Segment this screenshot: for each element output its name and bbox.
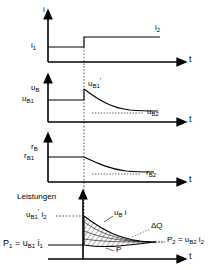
figure-canvas: i i1 i2 t uB uB1 uB1' uB2 t rB rB1 rB2 t… xyxy=(0,0,211,270)
chart4-leader-ub-i xyxy=(104,216,113,222)
chart3-t-axis-label: t xyxy=(189,175,192,184)
chart2-voltage-step xyxy=(48,89,84,100)
chart3-level-label-rb2: rB2 xyxy=(146,169,156,177)
chart2-level-label-ub2: uB2 xyxy=(147,108,159,116)
chart1-axis-label-i: i xyxy=(43,6,45,14)
chart2-peak-label-ub1-prime: uB1' xyxy=(88,80,101,88)
chart3-level-label-rb1: rB1 xyxy=(24,152,34,160)
chart1-level-label-i2: i2 xyxy=(155,24,160,32)
chart4-leader-p xyxy=(106,248,114,251)
chart1-current-trace xyxy=(48,37,160,47)
chart4-p1-label: P1 = uB1 i1 xyxy=(3,239,43,248)
chart2-axis-label-ub: uB xyxy=(31,84,39,92)
chart1-level-label-i1: i1 xyxy=(31,42,36,50)
chart2-level-label-ub1: uB1 xyxy=(22,95,34,103)
chart-resistance xyxy=(48,126,178,186)
chart4-p2-label: P2 = uB2 i2 xyxy=(167,236,204,244)
chart4-curve-label-p: P xyxy=(116,246,121,254)
chart4-top-level-label: uB1' i2 xyxy=(26,211,47,219)
chart4-curve-label-ub-i: uB i xyxy=(114,209,126,217)
chart4-t-axis-label: t xyxy=(189,252,192,261)
chart2-t-axis-label: t xyxy=(189,115,192,124)
chart3-axis-label-rb: rB xyxy=(31,143,38,151)
chart4-axis-title: Leistungen xyxy=(17,193,56,201)
chart1-t-axis-label: t xyxy=(189,55,192,64)
chart4-delta-q-label: ΔQ xyxy=(151,222,163,230)
chart4-leader-delta-q xyxy=(132,229,150,237)
chart3-resistance-decay xyxy=(84,157,154,172)
chart-voltage xyxy=(48,66,178,126)
